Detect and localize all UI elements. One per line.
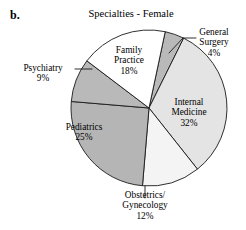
- slice-label-family-practice-line1: Family: [100, 45, 158, 55]
- slice-label-pediatrics: Pediatrics 25%: [53, 122, 115, 143]
- slice-label-general-surgery: General Surgery 4%: [185, 27, 243, 58]
- slice-value-pediatrics: 25%: [53, 132, 115, 142]
- pie-slice-pediatrics: [71, 101, 149, 185]
- slice-label-psychiatry-line1: Psychiatry: [12, 63, 74, 73]
- pie-chart-figure: b. Specialties - Female General Surgery …: [0, 0, 246, 230]
- slice-value-family-practice: 18%: [100, 66, 158, 76]
- slice-label-obstetrics-gynecology-line1: Obstetrics/: [106, 190, 184, 200]
- slice-value-internal-medicine: 32%: [158, 118, 220, 128]
- slice-value-general-surgery: 4%: [185, 48, 243, 58]
- slice-label-psychiatry: Psychiatry 9%: [12, 63, 74, 84]
- slice-label-internal-medicine: Internal Medicine 32%: [158, 97, 220, 128]
- slice-label-general-surgery-line2: Surgery: [185, 37, 243, 47]
- slice-label-obstetrics-gynecology: Obstetrics/ Gynecology 12%: [106, 190, 184, 221]
- slice-value-obstetrics-gynecology: 12%: [106, 211, 184, 221]
- slice-label-obstetrics-gynecology-line2: Gynecology: [106, 200, 184, 210]
- slice-label-pediatrics-line1: Pediatrics: [53, 122, 115, 132]
- slice-label-internal-medicine-line1: Internal: [158, 97, 220, 107]
- slice-label-internal-medicine-line2: Medicine: [158, 107, 220, 117]
- slice-label-family-practice: Family Practice 18%: [100, 45, 158, 76]
- slice-label-general-surgery-line1: General: [185, 27, 243, 37]
- slice-value-psychiatry: 9%: [12, 73, 74, 83]
- slice-label-family-practice-line2: Practice: [100, 55, 158, 65]
